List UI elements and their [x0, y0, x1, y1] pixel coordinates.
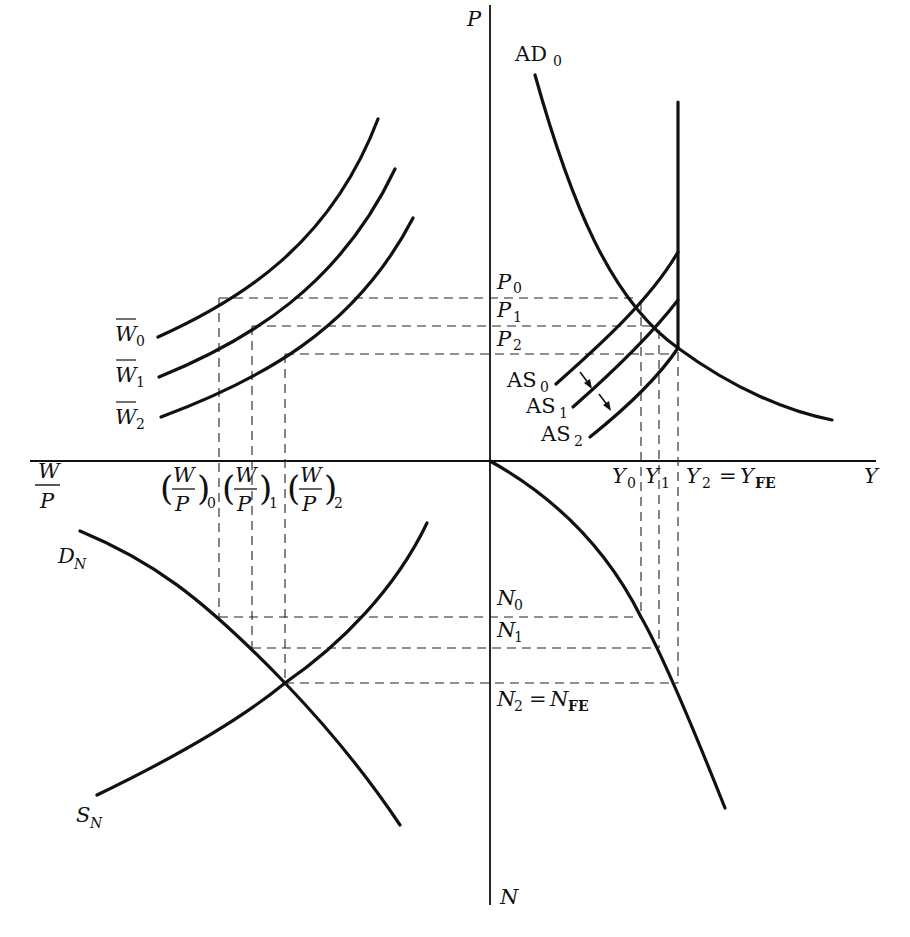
label-real-wage-2: ( W P ) 2 [287, 463, 343, 516]
axis-label-y: Y [864, 464, 880, 488]
svg-text:0: 0 [136, 333, 145, 349]
label-as1: AS 1 [525, 394, 568, 421]
svg-text:P: P [301, 492, 317, 516]
svg-text:Y: Y [645, 464, 661, 488]
svg-text:1: 1 [514, 629, 523, 645]
svg-text:P: P [496, 327, 512, 351]
svg-text:2: 2 [513, 337, 522, 353]
ad-curve [535, 75, 832, 420]
label-as2: AS 2 [540, 422, 583, 449]
svg-text:1: 1 [513, 309, 522, 325]
svg-text:0: 0 [513, 280, 522, 296]
label-y0: Y 0 [612, 464, 636, 491]
label-p2: P 2 [496, 327, 522, 353]
svg-text:2: 2 [136, 416, 145, 432]
axis-label-n: N [499, 885, 519, 909]
svg-text:P: P [496, 270, 512, 294]
svg-text:AS: AS [525, 394, 556, 418]
svg-text:0: 0 [514, 597, 523, 613]
label-p1: P 1 [496, 298, 522, 325]
svg-text:(: ( [287, 468, 300, 508]
svg-text:W: W [38, 459, 62, 483]
svg-text:D: D [57, 544, 75, 568]
svg-text:P: P [236, 492, 252, 516]
svg-text:FE: FE [568, 698, 589, 714]
label-w0: W 0 [115, 319, 145, 349]
svg-text:1: 1 [661, 475, 670, 491]
svg-text:N: N [496, 586, 516, 610]
label-y1: Y 1 [645, 464, 670, 491]
label-y2-yfe: Y 2 = Y FE [686, 464, 776, 491]
svg-text:N: N [496, 618, 516, 642]
svg-text:FE: FE [755, 475, 776, 491]
svg-text:N: N [496, 687, 516, 711]
svg-text:2: 2 [334, 495, 343, 511]
svg-text:(: ( [222, 468, 235, 508]
label-w1: W 1 [115, 360, 145, 390]
svg-text:2: 2 [702, 475, 711, 491]
shift-arrow-icon [580, 372, 592, 389]
as2-curve [590, 348, 678, 437]
svg-text:P: P [174, 492, 190, 516]
label-labor-demand: D N [57, 544, 87, 572]
label-n2-nfe: N 2 = N FE [496, 687, 589, 714]
svg-text:AS: AS [506, 368, 537, 392]
label-n1: N 1 [496, 618, 523, 645]
svg-text:=: = [719, 464, 737, 488]
label-ad0: AD 0 [514, 42, 562, 69]
svg-text:Y: Y [612, 464, 628, 488]
production-function-curve [490, 461, 725, 808]
svg-text:0: 0 [540, 379, 549, 395]
label-real-wage-1: ( W P ) 1 [222, 463, 278, 516]
wage-curve-w0 [158, 119, 378, 337]
svg-text:Y: Y [740, 464, 756, 488]
label-n0: N 0 [496, 586, 523, 613]
svg-text:W: W [173, 463, 197, 487]
svg-text:N: N [549, 687, 569, 711]
axis-label-p: P [466, 7, 482, 31]
svg-text:Y: Y [686, 464, 702, 488]
svg-text:0: 0 [627, 475, 636, 491]
svg-text:1: 1 [269, 495, 278, 511]
four-quadrant-diagram: P N Y W P AD 0 P 0 P 1 P 2 AS 0 AS 1 AS … [0, 0, 910, 937]
svg-text:1: 1 [136, 374, 145, 390]
svg-text:0: 0 [553, 53, 562, 69]
svg-text:=: = [529, 687, 547, 711]
svg-text:S: S [76, 803, 90, 827]
label-p0: P 0 [496, 270, 522, 296]
svg-text:P: P [496, 298, 512, 322]
as0-curve [556, 252, 678, 384]
svg-text:AS: AS [540, 422, 571, 446]
svg-text:W: W [300, 463, 324, 487]
label-real-wage-0: ( W P ) 0 [160, 463, 216, 516]
label-w2: W 2 [115, 402, 145, 432]
svg-text:N: N [89, 815, 103, 831]
svg-text:AD: AD [514, 42, 547, 66]
svg-text:P: P [39, 489, 55, 513]
svg-text:0: 0 [207, 495, 216, 511]
svg-text:2: 2 [574, 433, 583, 449]
svg-text:W: W [235, 463, 259, 487]
svg-text:1: 1 [559, 405, 568, 421]
svg-text:(: ( [160, 468, 173, 508]
svg-text:N: N [73, 556, 87, 572]
svg-text:2: 2 [514, 698, 523, 714]
label-labor-supply: S N [76, 803, 103, 831]
axis-label-real-wage: W P [35, 459, 62, 513]
wage-curve-w1 [159, 169, 395, 377]
shift-arrow-icon [599, 394, 611, 411]
label-as0: AS 0 [506, 368, 549, 395]
